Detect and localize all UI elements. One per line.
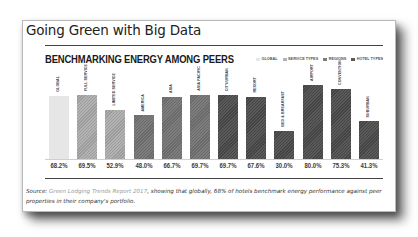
figure-card: Going Green with Big Data BENCHMARKING E… <box>22 20 396 212</box>
bar-value-label: 80.0% <box>301 162 325 169</box>
bar-category-label: AIRPORT <box>310 64 314 81</box>
bar-column: CITY/URBAN <box>218 71 238 159</box>
bar-value-label: 48.0% <box>132 162 156 169</box>
top-divider <box>45 45 383 46</box>
bar <box>246 97 266 159</box>
chart-title: BENCHMARKING ENERGY AMONG PEERS <box>45 53 234 65</box>
bar-column: RESORT <box>246 71 266 159</box>
bar-category-label: ASIA PACIFIC <box>197 66 201 91</box>
bar <box>105 110 125 159</box>
bar <box>162 97 182 159</box>
bar <box>134 115 154 159</box>
bar-value-label: 41.3% <box>357 162 381 169</box>
bar-plot-area: GLOBALFULL SERVICELIMITED SERVICEAMERICA… <box>45 71 383 159</box>
bar-category-label: BED & BREAKFAST <box>281 91 285 127</box>
caption-prefix: Source: <box>26 188 49 194</box>
bar <box>331 89 351 159</box>
bar <box>274 131 294 159</box>
bar-value-label: 75.3% <box>329 162 353 169</box>
bar-category-label: CONVENTION <box>338 60 342 85</box>
legend-label: GLOBAL <box>262 57 278 61</box>
bar-value-label: 69.7% <box>216 162 240 169</box>
legend-label: SERVICE TYPES <box>288 57 318 61</box>
bar-column: ASIA PACIFIC <box>190 71 210 159</box>
bar-value-label: 68.2% <box>47 162 71 169</box>
bar-column: GLOBAL <box>49 71 69 159</box>
legend-item-regions: REGIONS <box>323 57 346 61</box>
legend-label: HOTEL TYPES <box>357 57 383 61</box>
legend-swatch-hotel-types <box>351 58 355 61</box>
bar-column: AIRPORT <box>303 71 323 159</box>
bottom-divider <box>45 178 383 179</box>
legend-item-hotel-types: HOTEL TYPES <box>351 57 383 61</box>
bar-category-label: SUBURBAN <box>366 96 370 117</box>
bar <box>218 95 238 159</box>
legend-swatch-service-types <box>283 58 287 61</box>
bar-value-label: 52.9% <box>103 162 127 169</box>
bar-column: ASIA <box>162 71 182 159</box>
bar-category-label: AMERICA <box>141 94 145 111</box>
legend-swatch-global <box>256 58 260 61</box>
bar-category-label: ASIA <box>169 84 173 93</box>
bar-value-label: 69.5% <box>75 162 99 169</box>
bar-column: CONVENTION <box>331 71 351 159</box>
value-labels-row: 68.2%69.5%52.9%48.0%66.7%69.7%69.7%67.6%… <box>45 162 383 172</box>
bar <box>303 85 323 159</box>
bar-value-label: 67.6% <box>244 162 268 169</box>
bar-value-label: 69.7% <box>188 162 212 169</box>
legend-item-service-types: SERVICE TYPES <box>283 57 319 61</box>
bar-column: FULL SERVICE <box>77 71 97 159</box>
bar <box>359 121 379 159</box>
bar-category-label: LIMITED SERVICE <box>112 73 116 106</box>
bar-column: BED & BREAKFAST <box>274 71 294 159</box>
bar-category-label: FULL SERVICE <box>84 64 88 91</box>
bar-category-label: RESORT <box>253 77 257 93</box>
screenshot-stage: Going Green with Big Data BENCHMARKING E… <box>0 0 418 237</box>
legend-item-global: GLOBAL <box>256 57 278 61</box>
source-link[interactable]: Green Lodging Trends Report 2017 <box>49 188 147 194</box>
bar-value-label: 30.0% <box>272 162 296 169</box>
bar <box>77 95 97 159</box>
bar-column: SUBURBAN <box>359 71 379 159</box>
bar-category-label: GLOBAL <box>56 76 60 92</box>
bar <box>49 96 69 159</box>
bar <box>190 95 210 159</box>
chart-legend: GLOBAL SERVICE TYPES REGIONS HOTEL TYPES <box>256 57 383 61</box>
legend-swatch-regions <box>323 58 327 61</box>
bar-value-label: 66.7% <box>160 162 184 169</box>
bar-category-label: CITY/URBAN <box>225 68 229 91</box>
figure-caption: Source: Green Lodging Trends Report 2017… <box>26 187 386 206</box>
bar-column: AMERICA <box>134 71 154 159</box>
bar-column: LIMITED SERVICE <box>105 71 125 159</box>
x-axis-baseline <box>45 159 383 160</box>
page-title: Going Green with Big Data <box>26 22 201 38</box>
